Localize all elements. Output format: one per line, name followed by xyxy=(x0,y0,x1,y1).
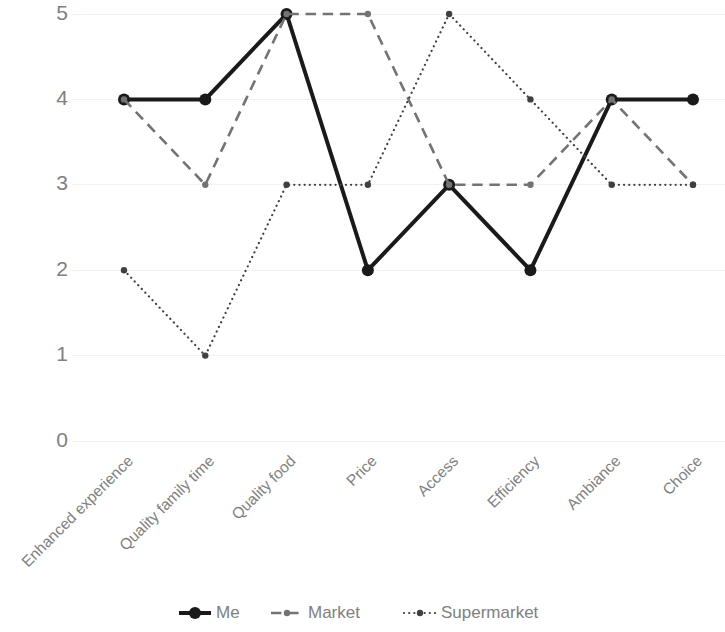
chart-canvas: 543210 Enhanced experienceQuality family… xyxy=(0,0,725,632)
legend-label: Supermarket xyxy=(441,603,539,622)
series-line xyxy=(124,14,693,270)
series-me xyxy=(118,8,699,276)
y-axis-tick-label: 4 xyxy=(56,86,68,109)
legend-item-market[interactable]: Market xyxy=(271,603,360,622)
x-axis-tick-label: Choice xyxy=(659,452,705,498)
x-axis-tick-label: Price xyxy=(343,452,380,489)
y-axis-tick-label: 1 xyxy=(56,342,68,365)
x-axis-tick-label: Ambiance xyxy=(563,452,624,513)
data-point xyxy=(524,264,536,276)
legend-item-supermarket[interactable]: Supermarket xyxy=(404,603,539,622)
data-point xyxy=(202,182,208,188)
line-chart: 543210 Enhanced experienceQuality family… xyxy=(0,0,725,632)
x-axis-tick-label: Quality food xyxy=(228,452,299,523)
legend-item-me[interactable]: Me xyxy=(179,603,240,622)
x-axis-tick-label: Enhanced experience xyxy=(18,452,136,570)
y-axis-labels-group: 543210 xyxy=(56,1,68,451)
data-point xyxy=(446,11,452,17)
data-point xyxy=(609,182,615,188)
series-group xyxy=(118,8,699,359)
data-point xyxy=(362,264,374,276)
legend-label: Me xyxy=(216,603,240,622)
legend-marker xyxy=(417,610,423,616)
legend-marker xyxy=(284,610,290,616)
data-point xyxy=(446,182,452,188)
data-point xyxy=(527,182,533,188)
data-point xyxy=(202,352,208,358)
legend-marker xyxy=(189,607,201,619)
y-axis-tick-label: 2 xyxy=(56,257,68,280)
data-point xyxy=(199,93,211,105)
y-axis-tick-label: 5 xyxy=(56,1,68,24)
data-point xyxy=(527,96,533,102)
x-axis-tick-label: Access xyxy=(414,452,462,500)
legend-label: Market xyxy=(308,603,360,622)
gridlines-group xyxy=(72,14,725,441)
data-point xyxy=(690,182,696,188)
x-axis-tick-label: Efficiency xyxy=(484,452,543,511)
x-axis-labels-group: Enhanced experienceQuality family timeQu… xyxy=(18,452,705,570)
data-point xyxy=(365,11,371,17)
data-point xyxy=(687,93,699,105)
data-point xyxy=(283,182,289,188)
y-axis-tick-label: 0 xyxy=(56,428,68,451)
data-point xyxy=(283,11,289,17)
data-point xyxy=(365,182,371,188)
data-point xyxy=(121,96,127,102)
data-point xyxy=(121,267,127,273)
data-point xyxy=(609,96,615,102)
legend-group: MeMarketSupermarket xyxy=(179,603,539,622)
y-axis-tick-label: 3 xyxy=(56,171,68,194)
